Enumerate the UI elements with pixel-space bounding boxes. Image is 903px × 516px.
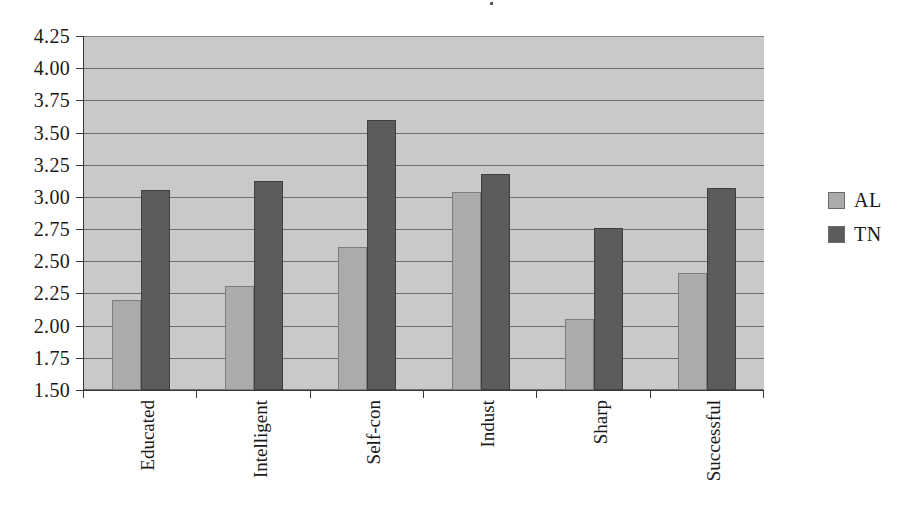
y-axis-tick-label: 4.00: [34, 58, 70, 78]
plot-area: [83, 36, 764, 390]
gridline: [84, 68, 764, 69]
chart-legend: ALTN: [828, 183, 898, 251]
legend-label: AL: [854, 190, 882, 210]
bar-al-3: [452, 192, 481, 390]
gridline: [84, 326, 764, 327]
bar-al-4: [565, 319, 594, 390]
scan-artifact-speck: [490, 2, 493, 5]
gridline: [84, 261, 764, 262]
y-axis-tick-label: 3.75: [34, 90, 70, 110]
gridline: [84, 36, 764, 37]
legend-item-tn: TN: [828, 217, 898, 251]
x-axis-category-label: Intelligent: [251, 400, 270, 478]
y-axis-line: [83, 36, 84, 391]
y-axis-tick-label: 3.25: [34, 155, 70, 175]
gridline: [84, 133, 764, 134]
y-axis-tick-label: 4.25: [34, 26, 70, 46]
x-axis-category-labels: EducatedIntelligentSelf-conIndustSharpSu…: [83, 392, 763, 516]
bar-al-0: [112, 300, 141, 390]
y-axis-tick-label: 1.75: [34, 348, 70, 368]
legend-swatch-icon: [828, 226, 845, 243]
x-axis-category-label: Educated: [138, 400, 157, 471]
gridline: [84, 100, 764, 101]
bar-chart: 4.254.003.753.503.253.002.752.502.252.00…: [0, 0, 903, 516]
bar-tn-1: [254, 181, 283, 390]
plot-inner: [84, 36, 764, 390]
gridline: [84, 197, 764, 198]
x-axis-category-label: Sharp: [591, 400, 610, 444]
bar-al-1: [225, 286, 254, 390]
y-axis-tick-label: 3.00: [34, 187, 70, 207]
legend-item-al: AL: [828, 183, 898, 217]
gridline: [84, 229, 764, 230]
y-axis-tick-label: 2.75: [34, 219, 70, 239]
bar-tn-2: [367, 120, 396, 390]
y-axis-tick-label: 2.25: [34, 283, 70, 303]
y-axis-tick-label: 1.50: [34, 380, 70, 400]
bar-al-2: [338, 247, 367, 390]
legend-label: TN: [854, 224, 882, 244]
gridline: [84, 358, 764, 359]
x-axis-category-label: Indust: [478, 400, 497, 448]
x-axis-tick-mark: [763, 391, 764, 398]
legend-swatch-icon: [828, 192, 845, 209]
x-axis-category-label: Successful: [704, 400, 723, 481]
x-axis-category-label: Self-con: [364, 400, 383, 464]
y-axis-labels: 4.254.003.753.503.253.002.752.502.252.00…: [0, 0, 76, 516]
gridline: [84, 293, 764, 294]
bar-tn-5: [707, 188, 736, 390]
y-axis-tick-label: 2.50: [34, 251, 70, 271]
bar-tn-0: [141, 190, 170, 390]
bar-tn-4: [594, 228, 623, 390]
y-axis-tick-label: 3.50: [34, 123, 70, 143]
y-axis-tick-label: 2.00: [34, 316, 70, 336]
bar-al-5: [678, 273, 707, 390]
gridline: [84, 165, 764, 166]
bar-tn-3: [481, 174, 510, 390]
